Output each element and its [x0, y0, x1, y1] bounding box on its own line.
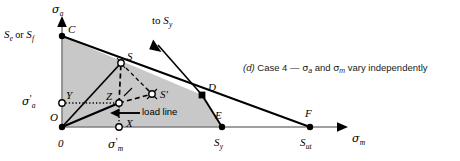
point-marker-Y [59, 100, 65, 106]
point-label-Y: Y [66, 90, 72, 101]
x-tick-label-sut: Sut [300, 137, 311, 148]
point-label-F: F [305, 108, 312, 119]
point-marker-S [118, 60, 124, 66]
sigma-m-prime-label: σ'm [108, 139, 123, 150]
to-sy-annotation: to Sy [152, 15, 172, 26]
point-label-S-prime: S' [160, 89, 168, 100]
y-axis-label: σa [52, 4, 63, 15]
point-marker-D [199, 92, 206, 99]
point-marker-E [219, 124, 225, 130]
point-label-X: X [126, 118, 133, 129]
point-label-O: O [50, 112, 58, 123]
figure-caption: (d) Case 4 — σa and σm vary independentl… [243, 63, 428, 73]
load-line-annotation: load line [142, 107, 177, 117]
x-tick-label-sy: Sy [214, 137, 223, 148]
point-marker-O [59, 124, 65, 130]
origin-tick-label: 0 [58, 138, 64, 149]
x-axis-arrowhead [337, 122, 348, 132]
point-label-Z: Z [106, 91, 112, 102]
point-label-S: S [127, 51, 133, 62]
endurance-limit-label: Se or Sf [4, 29, 34, 40]
x-axis-label: σm [352, 133, 365, 144]
point-marker-C [59, 33, 65, 39]
point-label-E: E [215, 110, 222, 121]
point-label-D: D [208, 82, 216, 93]
point-marker-Z [116, 100, 122, 106]
point-marker-S-prime [149, 91, 155, 97]
figure-container: σa Se or Sf C S S' D E F Y Z X O σ'a σ'm… [0, 0, 460, 161]
point-label-C: C [68, 24, 75, 35]
point-marker-F [307, 124, 313, 130]
point-marker-X [116, 124, 122, 130]
sigma-a-prime-label: σ'a [22, 96, 35, 107]
